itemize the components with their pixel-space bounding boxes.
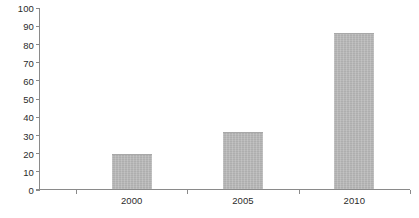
x-axis-tick-mark bbox=[299, 190, 300, 194]
y-axis-tick-label: 10 bbox=[23, 168, 36, 178]
x-axis-tick-mark bbox=[187, 190, 188, 194]
y-axis-tick-label: 90 bbox=[23, 22, 36, 32]
y-axis-tick-label: 60 bbox=[23, 77, 36, 87]
y-axis-tick-label: 70 bbox=[23, 58, 36, 68]
bar-chart-figure: 0102030405060708090100 200020052010 bbox=[0, 0, 419, 218]
y-axis-tick-label: 40 bbox=[23, 113, 36, 123]
bar bbox=[334, 33, 374, 190]
y-axis-tick-label: 30 bbox=[23, 131, 36, 141]
y-axis-tick-label: 50 bbox=[23, 95, 36, 105]
y-axis: 0102030405060708090100 bbox=[0, 0, 40, 218]
x-axis-tick-label: 2010 bbox=[299, 196, 410, 206]
y-axis-tick-label: 100 bbox=[18, 4, 36, 14]
y-axis-tick-label: 20 bbox=[23, 149, 36, 159]
x-axis-tick-label: 2000 bbox=[76, 196, 187, 206]
x-axis-tick-mark bbox=[410, 190, 411, 194]
bar bbox=[112, 154, 152, 190]
bar-column bbox=[334, 8, 374, 190]
y-axis-tick-label: 0 bbox=[29, 186, 36, 196]
y-axis-tick-label: 80 bbox=[23, 40, 36, 50]
bar-column bbox=[223, 8, 263, 190]
x-axis-tick-mark bbox=[76, 190, 77, 194]
bar-column bbox=[112, 8, 152, 190]
x-axis-line bbox=[36, 189, 410, 190]
plot-area bbox=[40, 8, 410, 190]
x-axis-tick-label: 2005 bbox=[187, 196, 298, 206]
bar bbox=[223, 132, 263, 190]
